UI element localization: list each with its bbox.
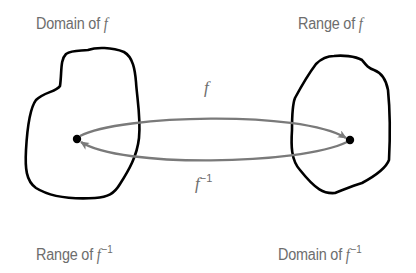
superscript: −1 [102, 243, 113, 255]
arrow-f [80, 119, 346, 138]
point-x [73, 135, 81, 143]
label-text: Range of [298, 15, 359, 32]
point-y [346, 136, 354, 144]
function-symbol: f [359, 15, 363, 32]
label-domain-of-f: Domain of f [36, 15, 108, 33]
arrow-label-f: f [204, 78, 209, 98]
function-symbol: f [104, 15, 108, 32]
label-text: Range of [36, 246, 97, 263]
arrow-f-inverse [81, 142, 347, 160]
function-symbol: f [204, 78, 209, 97]
label-text: Domain of [36, 15, 104, 32]
domain-f-region [26, 48, 140, 198]
label-text: Domain of [278, 246, 346, 263]
mapping-diagram [0, 0, 416, 273]
superscript: −1 [200, 172, 213, 184]
superscript: −1 [351, 243, 362, 255]
label-range-of-f-inverse: Range of f−1 [36, 243, 113, 264]
label-domain-of-f-inverse: Domain of f−1 [278, 243, 362, 264]
function-symbol: f [346, 246, 350, 263]
function-symbol: f [97, 246, 101, 263]
arrow-label-f-inverse: f−1 [195, 172, 212, 194]
label-range-of-f: Range of f [298, 15, 363, 33]
